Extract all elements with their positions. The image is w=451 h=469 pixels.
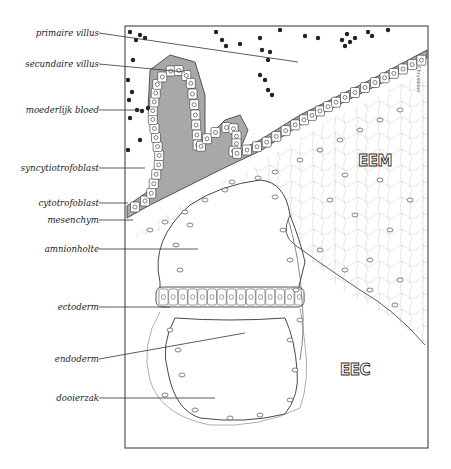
blood-cell [126, 148, 130, 152]
blood-cell [128, 116, 132, 120]
cell-nucleus [152, 100, 156, 104]
cell-nucleus [154, 172, 158, 176]
cell-nucleus [255, 145, 259, 149]
mesenchyme-nucleus [327, 198, 333, 202]
blood-cell [138, 33, 142, 37]
mesenchyme-nucleus [177, 268, 183, 272]
mesenchyme-nucleus [202, 198, 208, 202]
ectoderm-nucleus [220, 295, 224, 300]
cell-nucleus [193, 113, 197, 117]
blood-cell [370, 34, 374, 38]
cell-nucleus [152, 127, 156, 131]
label-mesenchym: mesenchym [47, 215, 99, 225]
ectoderm-nucleus [268, 295, 272, 300]
blood-cell [345, 32, 349, 36]
mesenchyme-nucleus [367, 288, 373, 292]
cell-nucleus [373, 81, 377, 85]
blood-cell [130, 90, 134, 94]
blood-cell [263, 78, 267, 82]
mesenchyme-nucleus [293, 288, 299, 292]
ectoderm-nucleus [210, 295, 214, 300]
cell-nucleus [157, 154, 161, 158]
mesenchyme-nucleus [147, 228, 153, 232]
cell-nucleus [274, 134, 278, 138]
cell-nucleus [401, 67, 405, 71]
blood-cell [266, 88, 270, 92]
ectoderm-nucleus [200, 295, 204, 300]
cell-nucleus [225, 126, 229, 130]
cell-nucleus [343, 96, 347, 100]
mesenchyme-nucleus [182, 210, 188, 214]
mesenchyme-nucleus [167, 328, 173, 332]
mesenchyme-nucleus [292, 368, 298, 372]
ectoderm-nucleus [181, 295, 185, 300]
mesenchyme-nucleus [162, 220, 168, 224]
cell-nucleus [310, 113, 314, 117]
mesenchyme-nucleus [272, 170, 278, 174]
blood-cell [258, 73, 262, 77]
mesenchyme-nucleus [229, 180, 235, 184]
mesenchyme-nucleus [173, 243, 179, 247]
cell-nucleus [410, 63, 414, 67]
mesenchyme-nucleus [222, 188, 228, 192]
cell-nucleus [151, 109, 155, 113]
ectoderm-nucleus [259, 295, 263, 300]
label-ectoderm: ectoderm [58, 302, 99, 312]
cell-nucleus [199, 144, 203, 148]
cell-nucleus [235, 134, 239, 138]
cell-nucleus [191, 92, 195, 96]
ectoderm-nucleus [239, 295, 243, 300]
blood-cell [258, 36, 262, 40]
blood-cell [128, 30, 132, 34]
cell-nucleus [184, 74, 188, 78]
cell-nucleus [334, 100, 338, 104]
blood-cell [353, 36, 357, 40]
mesenchyme-nucleus [280, 228, 286, 232]
mesenchyme-nucleus [337, 138, 343, 142]
cell-nucleus [353, 91, 357, 95]
blood-cell [366, 30, 370, 34]
label-primaire-villus: primaire villus [36, 28, 99, 38]
ectoderm-nucleus [288, 295, 292, 300]
cell-nucleus [318, 109, 322, 113]
mesenchyme-nucleus [357, 128, 363, 132]
blood-cell [224, 44, 228, 48]
mesenchyme-nucleus [377, 178, 383, 182]
blood-cell [268, 50, 272, 54]
cell-nucleus [419, 58, 423, 62]
mesenchyme-nucleus [317, 148, 323, 152]
label-dooierzak: dooierzak [56, 393, 99, 403]
cell-nucleus [235, 142, 239, 146]
mesenchyme-nucleus [367, 258, 373, 262]
blood-cell [131, 58, 135, 62]
mesenchyme-nucleus [392, 303, 398, 307]
mesenchyme-nucleus [162, 393, 168, 397]
cell-nucleus [235, 151, 239, 155]
mesenchyme-nucleus [179, 373, 185, 377]
mesenchyme-nucleus [287, 338, 293, 342]
mesenchyme-nucleus [407, 198, 413, 202]
cell-nucleus [326, 105, 330, 109]
blood-cell [127, 98, 131, 102]
cell-nucleus [192, 103, 196, 107]
blood-cell [126, 78, 130, 82]
cell-nucleus [156, 145, 160, 149]
blood-cell [238, 42, 242, 46]
cell-nucleus [154, 91, 158, 95]
blood-cell [138, 138, 142, 142]
cell-nucleus [194, 123, 198, 127]
blood-cell [140, 109, 144, 113]
cell-nucleus [195, 133, 199, 137]
ectoderm-nucleus [278, 295, 282, 300]
cell-nucleus [149, 191, 153, 195]
mesenchyme-nucleus [287, 258, 293, 262]
blood-cell [340, 38, 344, 42]
artist-signature: Chrysolaer [416, 66, 422, 93]
cell-nucleus [205, 137, 209, 141]
blood-cell [278, 28, 282, 32]
mesenchyme-nucleus [317, 248, 323, 252]
cell-nucleus [157, 163, 161, 167]
cell-nucleus [293, 123, 297, 127]
ectoderm-nucleus [229, 295, 233, 300]
blood-cell [220, 38, 224, 42]
